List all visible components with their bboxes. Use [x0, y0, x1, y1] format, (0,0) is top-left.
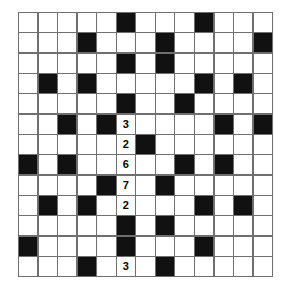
grid-cell[interactable] — [58, 257, 76, 276]
grid-cell[interactable] — [97, 257, 115, 276]
grid-cell[interactable] — [254, 74, 272, 93]
grid-cell[interactable] — [175, 135, 193, 154]
grid-cell[interactable] — [254, 94, 272, 113]
grid-cell[interactable] — [215, 257, 233, 276]
grid-cell[interactable] — [19, 54, 37, 73]
grid-cell[interactable] — [19, 135, 37, 154]
grid-cell[interactable] — [39, 54, 57, 73]
grid-cell[interactable] — [136, 257, 154, 276]
grid-cell[interactable] — [234, 176, 252, 195]
grid-cell[interactable] — [136, 176, 154, 195]
grid-cell[interactable] — [39, 115, 57, 134]
grid-cell[interactable] — [58, 237, 76, 256]
grid-cell[interactable] — [78, 176, 96, 195]
grid-cell[interactable] — [254, 216, 272, 235]
grid-cell[interactable] — [97, 196, 115, 215]
grid-cell[interactable] — [195, 257, 213, 276]
grid-cell[interactable]: 6 — [117, 155, 135, 174]
grid-cell[interactable] — [175, 216, 193, 235]
grid-cell[interactable] — [19, 115, 37, 134]
grid-cell[interactable] — [136, 115, 154, 134]
grid-cell[interactable] — [215, 176, 233, 195]
grid-cell[interactable] — [19, 74, 37, 93]
grid-cell[interactable] — [234, 155, 252, 174]
grid-cell[interactable] — [58, 216, 76, 235]
grid-cell[interactable] — [175, 54, 193, 73]
grid-cell[interactable] — [215, 216, 233, 235]
grid-cell[interactable] — [78, 155, 96, 174]
grid-cell[interactable] — [234, 115, 252, 134]
grid-cell[interactable] — [156, 237, 174, 256]
grid-cell[interactable] — [195, 216, 213, 235]
grid-cell[interactable] — [78, 237, 96, 256]
grid-cell[interactable] — [234, 54, 252, 73]
grid-cell[interactable] — [58, 13, 76, 32]
grid-cell[interactable] — [136, 196, 154, 215]
grid-cell[interactable] — [39, 155, 57, 174]
grid-cell[interactable]: 3 — [117, 115, 135, 134]
grid-cell[interactable] — [254, 13, 272, 32]
grid-cell[interactable] — [215, 135, 233, 154]
grid-cell[interactable] — [97, 74, 115, 93]
grid-cell[interactable] — [254, 196, 272, 215]
grid-cell[interactable] — [195, 135, 213, 154]
grid-cell[interactable] — [97, 155, 115, 174]
grid-cell[interactable] — [175, 237, 193, 256]
grid-cell[interactable] — [254, 155, 272, 174]
grid-cell[interactable] — [97, 13, 115, 32]
grid-cell[interactable] — [19, 176, 37, 195]
grid-cell[interactable]: 2 — [117, 196, 135, 215]
grid-cell[interactable] — [195, 155, 213, 174]
grid-cell[interactable] — [39, 135, 57, 154]
grid-cell[interactable] — [215, 196, 233, 215]
grid-cell[interactable] — [78, 54, 96, 73]
grid-cell[interactable] — [175, 196, 193, 215]
grid-cell[interactable] — [195, 33, 213, 52]
grid-cell[interactable] — [19, 33, 37, 52]
grid-cell[interactable] — [254, 54, 272, 73]
grid-cell[interactable] — [78, 216, 96, 235]
grid-cell[interactable]: 7 — [117, 176, 135, 195]
grid-cell[interactable] — [39, 176, 57, 195]
grid-cell[interactable] — [39, 13, 57, 32]
grid-cell[interactable] — [19, 13, 37, 32]
grid-cell[interactable] — [136, 74, 154, 93]
grid-cell[interactable] — [136, 33, 154, 52]
grid-cell[interactable] — [254, 176, 272, 195]
grid-cell[interactable] — [136, 237, 154, 256]
grid-cell[interactable] — [156, 135, 174, 154]
grid-cell[interactable] — [19, 196, 37, 215]
grid-cell[interactable] — [254, 257, 272, 276]
grid-cell[interactable] — [97, 135, 115, 154]
grid-cell[interactable] — [78, 13, 96, 32]
grid-cell[interactable] — [58, 176, 76, 195]
grid-cell[interactable] — [195, 54, 213, 73]
grid-cell[interactable] — [195, 94, 213, 113]
grid-cell[interactable] — [97, 94, 115, 113]
grid-cell[interactable] — [156, 94, 174, 113]
grid-cell[interactable] — [215, 13, 233, 32]
grid-cell[interactable] — [156, 155, 174, 174]
grid-cell[interactable] — [19, 216, 37, 235]
grid-cell[interactable] — [78, 94, 96, 113]
grid-cell[interactable] — [136, 94, 154, 113]
grid-cell[interactable] — [234, 237, 252, 256]
grid-cell[interactable] — [39, 237, 57, 256]
grid-cell[interactable] — [234, 257, 252, 276]
grid-cell[interactable] — [195, 115, 213, 134]
grid-cell[interactable] — [234, 33, 252, 52]
grid-cell[interactable] — [234, 135, 252, 154]
grid-cell[interactable] — [58, 196, 76, 215]
grid-cell[interactable] — [215, 33, 233, 52]
grid-cell[interactable] — [97, 54, 115, 73]
grid-cell[interactable] — [58, 94, 76, 113]
grid-cell[interactable] — [234, 94, 252, 113]
grid-cell[interactable]: 3 — [117, 257, 135, 276]
grid-cell[interactable] — [78, 115, 96, 134]
grid-cell[interactable] — [19, 94, 37, 113]
crossword-grid[interactable]: 326723 — [18, 12, 273, 277]
grid-cell[interactable] — [39, 33, 57, 52]
grid-cell[interactable] — [58, 74, 76, 93]
grid-cell[interactable] — [136, 13, 154, 32]
grid-cell[interactable] — [254, 135, 272, 154]
